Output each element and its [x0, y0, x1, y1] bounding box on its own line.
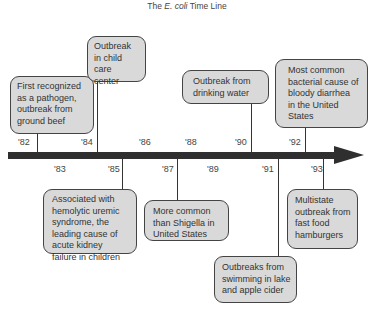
event-box-90: Outbreak from drinking water: [182, 70, 269, 104]
event-text: Outbreaks from swimming in lake and appl…: [222, 262, 291, 295]
event-text: More common than Shigella in United Stat…: [153, 206, 215, 239]
event-box-85: Associated with hemolytic uremic syndrom…: [43, 189, 137, 254]
year-label-82: '82: [18, 137, 30, 147]
year-label-89: '89: [207, 164, 219, 174]
year-label-88: '88: [185, 137, 197, 147]
connector-line-84: [97, 81, 98, 153]
event-text: Multistate outbreak from fast food hambu…: [295, 195, 351, 240]
event-text: Most common bacterial cause of bloody di…: [288, 65, 359, 121]
connector-line-92: [305, 127, 306, 153]
year-label-93: '93: [311, 164, 323, 174]
year-label-83: '83: [54, 164, 66, 174]
event-text: Outbreak from drinking water: [193, 76, 251, 98]
year-label-90: '90: [235, 137, 247, 147]
connector-line-91: [278, 158, 279, 257]
year-label-87: '87: [162, 164, 174, 174]
event-text: Outbreak in child care center: [94, 41, 131, 86]
connector-line-87: [177, 158, 178, 201]
event-box-93: Multistate outbreak from fast food hambu…: [287, 189, 358, 249]
event-box-92: Most common bacterial cause of bloody di…: [275, 59, 368, 128]
event-box-84: Outbreak in child care center: [87, 36, 146, 82]
timeline-arrow-shaft: [8, 152, 338, 159]
title-prefix: The: [147, 1, 164, 11]
year-label-91: '91: [262, 164, 274, 174]
year-label-92: '92: [289, 137, 301, 147]
connector-line-90: [251, 103, 252, 153]
event-text: Associated with hemolytic uremic syndrom…: [52, 194, 120, 262]
event-box-82: First recognized as a pathogen, outbreak…: [10, 76, 94, 134]
event-box-87: More common than Shigella in United Stat…: [144, 200, 229, 241]
timeline-arrow-head-icon: [334, 146, 364, 164]
year-label-86: '86: [139, 137, 151, 147]
connector-line-82: [37, 133, 38, 153]
title-italic: E. coli: [164, 1, 187, 11]
event-text: First recognized as a pathogen, outbreak…: [17, 81, 81, 126]
connector-line-85: [122, 158, 123, 190]
connector-line-93: [323, 158, 324, 190]
diagram-title: The E. coli Time Line: [0, 1, 374, 11]
title-suffix: Time Line: [187, 1, 226, 11]
year-label-84: '84: [81, 137, 93, 147]
year-label-85: '85: [108, 164, 120, 174]
event-box-91: Outbreaks from swimming in lake and appl…: [214, 256, 297, 303]
